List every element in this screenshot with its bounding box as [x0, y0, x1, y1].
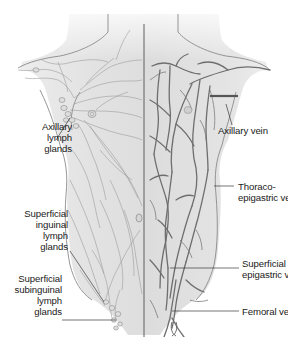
label-axillary-lymph-glands: Axillary lymph glands [18, 121, 72, 154]
label-superficial-inguinal-lymph-glands: Superficial inguinal lymph glands [6, 208, 68, 252]
torso-diagram: Axillary lymph glands Superficial inguin… [0, 0, 288, 337]
umbilicus [136, 214, 142, 222]
label-axillary-vein: Axillary vein [218, 125, 268, 136]
label-superficial-epigastric-vein: Superficial epigastric vein [242, 258, 288, 280]
label-thoraco-epigastric-vein: Thoraco- epigastric vein [238, 181, 288, 203]
vein-node [184, 107, 192, 114]
label-femoral-vein: Femoral vein [242, 306, 288, 317]
label-superficial-subinguinal-lymph-glands: Superficial subinguinal lymph glands [2, 273, 62, 317]
